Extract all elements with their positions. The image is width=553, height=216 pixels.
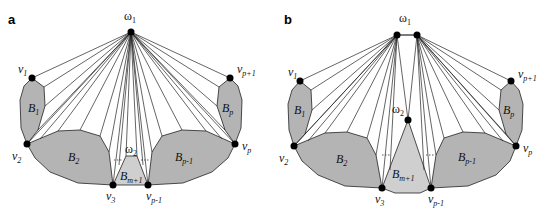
vertex-vp xyxy=(232,141,239,148)
panel-a: a xyxy=(8,9,256,205)
label-omega2: ω2 xyxy=(392,102,404,118)
vertex-vp-minus-1 xyxy=(145,182,152,189)
vertex-v3 xyxy=(110,182,117,189)
label-vp-plus-1: vp+1 xyxy=(237,62,256,78)
label-v1: v1 xyxy=(288,65,297,81)
panel-b: b xyxy=(279,11,537,208)
label-vp: vp xyxy=(242,139,251,155)
vertex-vp-minus-1 xyxy=(428,185,435,192)
vertex-v3 xyxy=(379,185,386,192)
vertex-omega1 xyxy=(128,29,135,36)
vertex-omega1-right xyxy=(414,32,421,39)
panel-label-b: b xyxy=(284,12,292,27)
vertex-vp xyxy=(513,143,520,150)
label-v3: v3 xyxy=(106,189,115,205)
label-vp-plus-1: vp+1 xyxy=(518,67,537,83)
label-v3: v3 xyxy=(375,192,384,208)
label-vp-minus-1: vp-1 xyxy=(146,189,162,205)
vertex-v2 xyxy=(291,143,298,150)
vertex-vp-plus-1 xyxy=(508,78,515,85)
label-v2: v2 xyxy=(279,151,288,167)
panel-label-a: a xyxy=(8,12,16,27)
vertex-omega2 xyxy=(405,117,412,124)
vertex-v1 xyxy=(297,78,304,85)
figure: a xyxy=(0,0,553,216)
vertex-omega1-left xyxy=(394,32,401,39)
label-vp-minus-1: vp-1 xyxy=(428,192,444,208)
label-omega1: ω1 xyxy=(399,11,411,27)
label-vp: vp xyxy=(523,141,532,157)
label-v2: v2 xyxy=(12,149,21,165)
vertex-vp-plus-1 xyxy=(227,75,234,82)
label-omega2: ω2 xyxy=(125,142,137,158)
label-omega1: ω1 xyxy=(124,9,136,25)
vertex-v1 xyxy=(29,75,36,82)
label-v1: v1 xyxy=(18,62,27,78)
vertex-v2 xyxy=(24,141,31,148)
